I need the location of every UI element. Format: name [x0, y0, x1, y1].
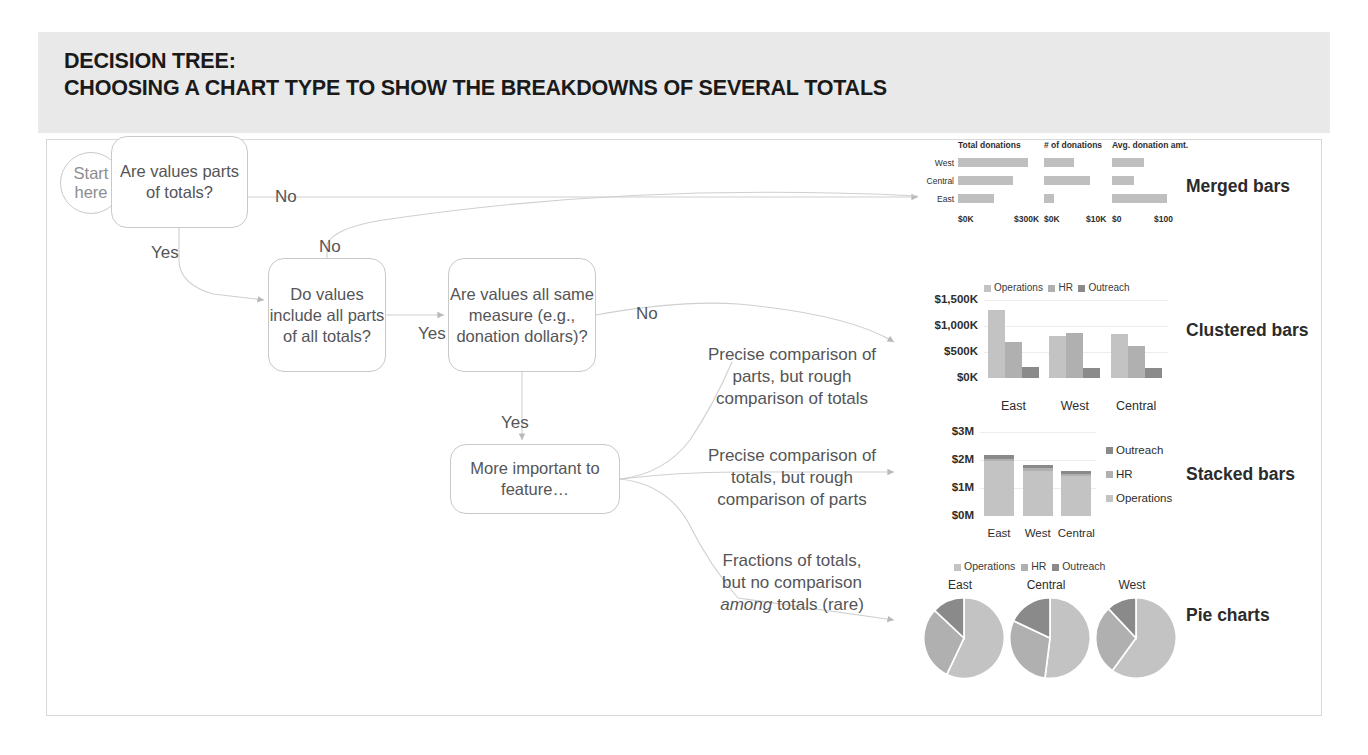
pie-legend-swatch-0: [954, 564, 961, 571]
stacked-segment-2-2: [1061, 471, 1091, 474]
node-q3-label: Are values all same measure (e.g., donat…: [449, 284, 595, 347]
clustered-legend: Operations HR Outreach: [984, 282, 1130, 293]
result-label-merged-bars: Merged bars: [1186, 176, 1290, 197]
node-q2-label: Do values include all parts of all total…: [269, 284, 385, 347]
merged-column-header-0: Total donations: [958, 140, 1021, 150]
edge-label-q3-yes: Yes: [501, 413, 529, 433]
edge-label-q2-yes: Yes: [418, 324, 446, 344]
merged-row-label-0: West: [916, 158, 954, 168]
stacked-legend-label-0: Outreach: [1116, 444, 1163, 456]
clustered-gridline-3: [984, 300, 1168, 301]
stacked-segment-0-1: [984, 459, 1014, 462]
clustered-legend-label-2: Outreach: [1088, 282, 1129, 293]
pie-legend-label-2: Outreach: [1062, 560, 1105, 572]
pie-legend-label-0: Operations: [964, 560, 1021, 572]
stacked-gridline-3: [980, 432, 1096, 433]
merged-column-header-1: # of donations: [1044, 140, 1102, 150]
clustered-ytick-2: $1,000K: [916, 319, 978, 331]
merged-bar-0-1: [958, 176, 1013, 185]
clustered-bar-2-0: [1111, 334, 1128, 378]
outcome-description-pie: Fractions of totals, but no comparison a…: [698, 550, 886, 616]
chart-pie-charts: Operations HR OutreachEastCentralWest: [916, 560, 1176, 700]
edge-label-q2-no: No: [319, 237, 341, 257]
pie-title-1: Central: [1006, 578, 1086, 592]
stacked-segment-2-0: [1061, 476, 1091, 516]
pie-svg-0: [922, 596, 1006, 680]
merged-axis-max-1: $10K: [1086, 214, 1106, 224]
edge-label-q1-yes: Yes: [151, 243, 179, 263]
merged-axis-min-2: $0: [1112, 214, 1121, 224]
stacked-bar-0: [984, 455, 1014, 516]
clustered-legend-label-0: Operations: [994, 282, 1048, 293]
node-q1-label: Are values parts of totals?: [112, 161, 247, 203]
stacked-segment-2-1: [1061, 474, 1091, 476]
slide: DECISION TREE: CHOOSING A CHART TYPE TO …: [38, 32, 1330, 722]
node-question-same-measure[interactable]: Are values all same measure (e.g., donat…: [448, 258, 596, 372]
chart-clustered-bars: Operations HR OutreachEastWestCentral$0K…: [916, 282, 1176, 402]
pie-legend-swatch-2: [1052, 564, 1059, 571]
merged-axis-max-0: $300K: [1014, 214, 1039, 224]
clustered-bar-1-2: [1083, 368, 1100, 378]
stacked-legend-swatch-0: [1106, 447, 1113, 454]
merged-axis-max-2: $100: [1154, 214, 1173, 224]
stacked-ytick-1: $1M: [916, 481, 974, 493]
merged-row-label-1: Central: [916, 176, 954, 186]
pie-slice-1-0: [1045, 598, 1090, 679]
merged-bar-2-2: [1112, 194, 1167, 203]
merged-bar-0-2: [958, 194, 994, 203]
pie-wrap-1: [1008, 596, 1092, 680]
pie-svg-2: [1094, 596, 1178, 680]
pie-legend: Operations HR Outreach: [954, 560, 1105, 572]
stacked-plot: EastWestCentral: [980, 432, 1096, 516]
pie-legend-swatch-1: [1021, 564, 1028, 571]
merged-bar-2-1: [1112, 176, 1134, 185]
clustered-bar-1-1: [1066, 333, 1083, 378]
result-label-pie-charts: Pie charts: [1186, 605, 1270, 626]
clustered-category-0: East: [982, 399, 1045, 413]
node-question-include-all-parts[interactable]: Do values include all parts of all total…: [268, 258, 386, 372]
clustered-category-1: West: [1043, 399, 1106, 413]
stacked-ytick-3: $3M: [916, 425, 974, 437]
pie-title-0: East: [920, 578, 1000, 592]
outcome-description-clustered: Precise comparison of parts, but rough c…: [698, 344, 886, 410]
clustered-ytick-0: $0K: [916, 371, 978, 383]
clustered-bar-0-0: [988, 310, 1005, 378]
stacked-legend-swatch-1: [1106, 471, 1113, 478]
merged-axis-min-0: $0K: [958, 214, 974, 224]
clustered-bar-2-2: [1145, 368, 1162, 378]
merged-bar-0-0: [958, 158, 1028, 167]
pie-svg-1: [1008, 596, 1092, 680]
node-more-important-to-feature[interactable]: More important to feature…: [450, 444, 620, 514]
clustered-bar-2-1: [1128, 346, 1145, 378]
pie-desc-emphasis: among: [720, 595, 772, 614]
clustered-legend-swatch-2: [1078, 285, 1085, 292]
stacked-bar-1: [1023, 465, 1053, 516]
slide-page: DECISION TREE: CHOOSING A CHART TYPE TO …: [0, 0, 1368, 755]
result-label-stacked-bars: Stacked bars: [1186, 464, 1295, 485]
stacked-segment-1-0: [1023, 471, 1053, 516]
stacked-legend-label-1: HR: [1116, 468, 1133, 480]
clustered-bar-0-1: [1005, 342, 1022, 378]
edge-label-q3-no: No: [636, 304, 658, 324]
result-label-clustered-bars: Clustered bars: [1186, 320, 1309, 341]
node-q4-label: More important to feature…: [451, 458, 619, 500]
edge-label-q1-no: No: [275, 187, 297, 207]
stacked-category-0: East: [978, 527, 1020, 539]
stacked-legend-item-0: Outreach: [1106, 444, 1163, 456]
pie-wrap-2: [1094, 596, 1178, 680]
stacked-segment-1-1: [1023, 468, 1053, 470]
clustered-legend-swatch-1: [1048, 285, 1055, 292]
merged-column-header-2: Avg. donation amt.: [1112, 140, 1188, 150]
pie-wrap-0: [922, 596, 1006, 680]
merged-row-label-2: East: [916, 194, 954, 204]
clustered-bar-0-2: [1022, 367, 1039, 378]
stacked-legend-label-2: Operations: [1116, 492, 1172, 504]
clustered-legend-label-1: HR: [1058, 282, 1078, 293]
merged-bar-1-1: [1044, 176, 1090, 185]
stacked-segment-0-0: [984, 461, 1014, 516]
stacked-segment-1-2: [1023, 465, 1053, 468]
outcome-description-stacked: Precise comparison of totals, but rough …: [698, 445, 886, 511]
clustered-category-2: Central: [1105, 399, 1168, 413]
node-question-values-parts-of-totals[interactable]: Are values parts of totals?: [111, 136, 248, 228]
stacked-ytick-2: $2M: [916, 453, 974, 465]
